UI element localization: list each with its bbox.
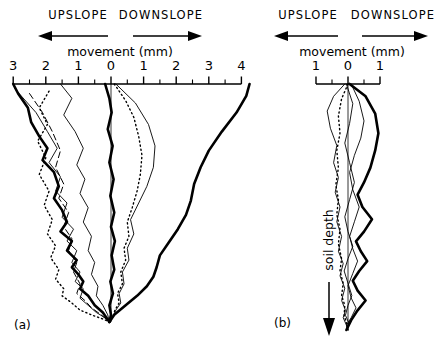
x-tick-labels-panel-b: 101 [312,58,384,73]
arrow-left-icon [38,31,108,41]
profile-trace [60,84,109,322]
x-tick-label: 1 [139,58,147,73]
upslope-label-b: UPSLOPE [278,8,338,22]
soil-depth-axis: soil depth [321,209,336,336]
arrow-down-icon [323,282,335,336]
profile-trace [105,84,115,322]
downslope-label-a: DOWNSLOPE [119,8,203,22]
arrow-left-icon [274,31,338,41]
profile-trace [344,84,354,330]
x-axis-panel-a [13,77,241,85]
panel-a-header: UPSLOPE DOWNSLOPE movement (mm) [38,8,203,59]
soil-movement-figure: UPSLOPE DOWNSLOPE movement (mm) UPSLOPE … [0,0,448,340]
plot-area-panel-a [13,84,249,322]
x-tick-label: 1 [312,58,320,73]
x-tick-label: 1 [74,58,82,73]
arrow-right-icon [133,31,202,41]
x-axis-panel-b [316,77,380,85]
profile-trace [109,84,142,322]
x-tick-label: 0 [107,58,115,73]
x-tick-label: 2 [172,58,180,73]
upslope-label-a: UPSLOPE [48,8,108,22]
x-tick-label: 2 [42,58,50,73]
profile-trace [109,84,249,322]
arrow-right-icon [362,31,428,41]
x-tick-label: 0 [344,58,352,73]
x-tick-label: 1 [376,58,384,73]
axis-title-a: movement (mm) [67,44,173,59]
downslope-label-b: DOWNSLOPE [351,8,435,22]
panel-caption-a: (a) [14,318,31,332]
x-tick-labels-panel-a: 32101234 [9,58,245,73]
panel-caption-b: (b) [274,316,291,330]
profile-trace [13,84,109,322]
x-tick-label: 4 [237,58,245,73]
profile-trace [15,89,110,322]
soil-depth-label: soil depth [321,209,336,270]
x-tick-label: 3 [205,58,213,73]
axis-title-b: movement (mm) [299,44,405,59]
x-tick-label: 3 [9,58,17,73]
profile-trace [38,91,110,322]
plot-area-panel-b [327,84,378,330]
panel-b-header: UPSLOPE DOWNSLOPE movement (mm) [274,8,435,59]
profile-trace [336,84,348,330]
